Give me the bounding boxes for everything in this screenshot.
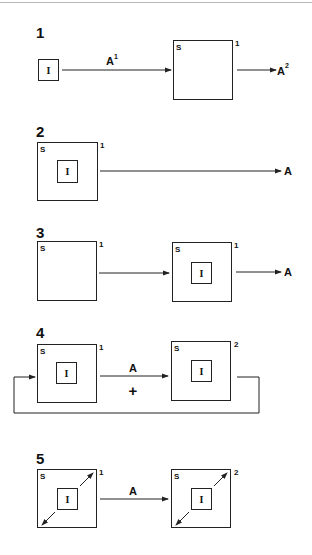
system-label: S: [176, 43, 182, 52]
diagonal-arrow-down-icon: [176, 512, 189, 525]
system-box-right: S 2 I: [172, 340, 240, 401]
panel-number: 4: [36, 324, 45, 341]
panel-2: 2 S 1 I A: [36, 123, 292, 201]
system-diagram: 1 I A 1 S 1 A 2 2 S 1 I A 3: [0, 0, 312, 555]
system-label: S: [40, 145, 46, 154]
system-index: 2: [234, 468, 239, 477]
panel-1: 1 I A 1 S 1 A 2: [36, 24, 289, 100]
system-index: 1: [235, 39, 240, 48]
arrow-out-label: A: [284, 165, 292, 177]
panel-5: 5 S 1 I A S 2 I: [36, 450, 239, 528]
system-label: S: [175, 245, 181, 254]
arrow-in-superscript: 1: [114, 53, 118, 60]
system-box: S 1 I: [38, 141, 106, 201]
system-box-left: S 1: [38, 240, 105, 301]
system-label: S: [174, 472, 180, 481]
system-label: S: [174, 344, 180, 353]
plus-operator: +: [129, 382, 138, 399]
inner-input-label: I: [65, 368, 69, 379]
system-label: S: [40, 472, 46, 481]
system-index: 1: [99, 343, 104, 352]
inner-input-label: I: [200, 366, 204, 377]
panel-number: 5: [36, 450, 44, 467]
system-index: 1: [99, 468, 104, 477]
system-index: 2: [234, 340, 239, 349]
inner-input-label: I: [200, 268, 204, 279]
system-box-right: S 1 I: [173, 241, 240, 302]
input-box: I: [39, 60, 59, 81]
system-index: 1: [234, 241, 239, 250]
system-label: S: [40, 244, 46, 253]
panel-3: 3 S 1 S 1 I A: [36, 224, 292, 302]
system-label: S: [40, 347, 46, 356]
inner-input-label: I: [66, 494, 70, 505]
diagonal-arrow-up-icon: [214, 473, 227, 486]
arrow-out-superscript: 2: [285, 62, 289, 69]
arrow-label: A: [129, 485, 137, 497]
diagonal-arrow-up-icon: [80, 473, 93, 486]
inner-input-label: I: [66, 166, 70, 177]
system-index: 1: [100, 141, 105, 150]
system-index: 1: [99, 240, 104, 249]
panel-number: 2: [36, 123, 44, 140]
panel-4: 4 S 1 I A + S 2 I: [14, 324, 259, 413]
system-box: S 1: [174, 39, 241, 100]
arrow-out-label: A: [284, 266, 292, 278]
system-box-left: S 1 I: [38, 468, 105, 528]
panel-number: 1: [36, 24, 44, 41]
input-label: I: [47, 65, 51, 76]
arrow-out-label: A: [277, 65, 285, 77]
arrow-in-label: A: [106, 55, 114, 67]
panel-number: 3: [36, 224, 44, 241]
system-box-right: S 2 I: [172, 468, 240, 528]
inner-input-label: I: [200, 494, 204, 505]
diagonal-arrow-down-icon: [42, 512, 55, 525]
arrow-label: A: [129, 362, 137, 374]
system-box-left: S 1 I: [38, 343, 105, 403]
